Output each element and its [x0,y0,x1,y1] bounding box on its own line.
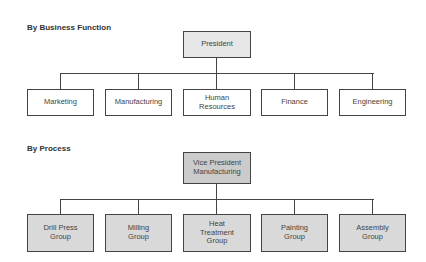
node-label: Engineering [352,98,392,107]
node-label: Human Resources [199,94,235,111]
connector-line [138,199,139,214]
section-title-process: By Process [27,144,71,153]
org-node-vp-manufacturing: Vice President Manufacturing [183,152,251,184]
node-label: Manufacturing [115,98,163,107]
node-label: Drill Press Group [43,224,77,241]
node-label: Milling Group [128,224,149,241]
org-node-human-resources: Human Resources [183,89,251,116]
org-node-marketing: Marketing [27,89,94,116]
org-node-painting-group: Painting Group [261,214,328,252]
node-label: Heat Treatment Group [200,220,234,246]
org-node-manufacturing: Manufacturing [105,89,172,116]
connector-line [294,73,295,89]
org-node-assembly-group: Assembly Group [339,214,406,252]
node-label: Vice President Manufacturing [193,159,241,176]
org-node-engineering: Engineering [339,89,406,116]
connector-line [216,199,217,214]
connector-line [294,199,295,214]
node-label: Assembly Group [356,224,389,241]
org-node-president: President [183,31,251,58]
connector-line [216,183,217,200]
node-label: Marketing [44,98,77,107]
org-node-finance: Finance [261,89,328,116]
connector-line [372,73,373,89]
connector-line [60,199,61,214]
org-node-milling-group: Milling Group [105,214,172,252]
node-label: Painting Group [281,224,308,241]
node-label: President [201,40,233,49]
connector-line [216,73,217,89]
section-title-business-function: By Business Function [27,23,111,32]
connector-line [60,73,61,89]
node-label: Finance [281,98,308,107]
connector-line [138,73,139,89]
connector-line [216,57,217,74]
org-node-drill-press-group: Drill Press Group [27,214,94,252]
org-node-heat-treatment-group: Heat Treatment Group [183,214,251,252]
connector-line [372,199,373,214]
